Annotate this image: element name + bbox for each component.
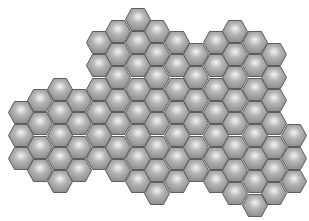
hexagon-cell <box>281 147 307 170</box>
hexagon-shape <box>281 124 307 147</box>
hexagon-shape <box>261 43 287 66</box>
hexagon-shape <box>281 170 307 193</box>
hexagon-cell <box>261 89 287 112</box>
hexagon-cluster <box>0 0 309 221</box>
hexagon-cell <box>261 43 287 66</box>
hexagon-cell <box>261 66 287 89</box>
hexagon-shape <box>281 147 307 170</box>
hexagon-shape <box>261 66 287 89</box>
hexagon-shape <box>261 89 287 112</box>
hexagon-cell <box>281 170 307 193</box>
hexagon-cell <box>281 124 307 147</box>
